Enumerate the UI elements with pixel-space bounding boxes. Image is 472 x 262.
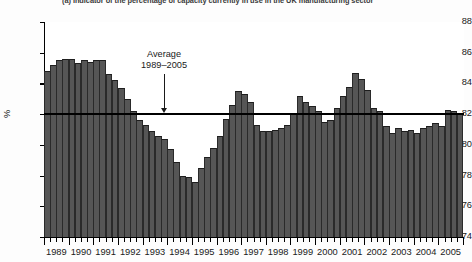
x-tick-mark-quarter xyxy=(278,238,279,242)
x-tick-mark-year xyxy=(44,238,45,245)
average-annotation: Average 1989–2005 xyxy=(119,49,209,71)
x-tick-mark-year xyxy=(463,238,464,245)
figure-capacity-utilisation: (a) Indicator of the percentage of capac… xyxy=(0,0,472,262)
x-tick-mark-year xyxy=(315,238,316,245)
x-tick-mark-quarter xyxy=(395,238,396,242)
x-tick-mark-quarter xyxy=(408,238,409,242)
x-tick-mark-quarter xyxy=(327,238,328,242)
x-tick-mark-quarter xyxy=(229,238,230,242)
x-tick-mark-quarter xyxy=(198,238,199,242)
x-tick-mark-quarter xyxy=(284,238,285,242)
x-tick-mark-year xyxy=(217,238,218,245)
x-tick-mark-quarter xyxy=(377,238,378,242)
x-tick-mark-quarter xyxy=(106,238,107,242)
x-tick-mark-year xyxy=(93,238,94,245)
x-tick-mark-quarter xyxy=(451,238,452,242)
x-tick-mark-quarter xyxy=(223,238,224,242)
x-tick-mark-quarter xyxy=(136,238,137,242)
x-tick-mark-year xyxy=(241,238,242,245)
bar xyxy=(457,113,464,237)
x-tick-mark-year xyxy=(69,238,70,245)
y-tick-mark xyxy=(40,53,44,54)
x-tick-mark-quarter xyxy=(334,238,335,242)
x-tick-mark-year xyxy=(438,238,439,245)
x-tick-mark-quarter xyxy=(124,238,125,242)
x-tick-mark-quarter xyxy=(383,238,384,242)
x-tick-mark-quarter xyxy=(352,238,353,242)
x-tick-mark-year xyxy=(118,238,119,245)
x-tick-mark-quarter xyxy=(180,238,181,242)
x-tick-mark-year xyxy=(192,238,193,245)
x-tick-mark-year xyxy=(290,238,291,245)
x-tick-mark-quarter xyxy=(358,238,359,242)
x-tick-mark-quarter xyxy=(457,238,458,242)
x-tick-mark-quarter xyxy=(112,238,113,242)
x-tick-mark-year xyxy=(167,238,168,245)
x-tick-mark-quarter xyxy=(149,238,150,242)
x-tick-mark-quarter xyxy=(50,238,51,242)
x-tick-mark-quarter xyxy=(303,238,304,242)
x-tick-mark-year xyxy=(364,238,365,245)
x-tick-mark-quarter xyxy=(426,238,427,242)
x-tick-mark-quarter xyxy=(99,238,100,242)
x-tick-mark-quarter xyxy=(321,238,322,242)
x-tick-mark-quarter xyxy=(161,238,162,242)
x-tick-mark-quarter xyxy=(75,238,76,242)
x-tick-mark-quarter xyxy=(371,238,372,242)
x-tick-mark-quarter xyxy=(445,238,446,242)
x-tick-mark-quarter xyxy=(420,238,421,242)
x-tick-label: 2005 xyxy=(436,247,466,257)
x-tick-mark-year xyxy=(414,238,415,245)
average-arrow-head xyxy=(161,108,167,113)
y-tick-label: 86 xyxy=(440,48,472,57)
y-tick-mark xyxy=(40,22,44,23)
average-line xyxy=(44,113,464,115)
x-tick-mark-quarter xyxy=(235,238,236,242)
x-tick-mark-quarter xyxy=(130,238,131,242)
x-tick-mark-quarter xyxy=(254,238,255,242)
x-tick-mark-quarter xyxy=(247,238,248,242)
figure-caption: (a) Indicator of the percentage of capac… xyxy=(62,0,466,6)
x-tick-mark-quarter xyxy=(401,238,402,242)
x-tick-mark-quarter xyxy=(155,238,156,242)
x-tick-mark-quarter xyxy=(309,238,310,242)
x-tick-mark-quarter xyxy=(432,238,433,242)
x-tick-mark-quarter xyxy=(297,238,298,242)
x-tick-mark-quarter xyxy=(346,238,347,242)
y-tick-label: 84 xyxy=(440,78,472,87)
x-tick-mark-quarter xyxy=(87,238,88,242)
x-tick-mark-quarter xyxy=(186,238,187,242)
x-tick-mark-quarter xyxy=(204,238,205,242)
y-axis-label: % xyxy=(2,110,12,118)
x-tick-mark-quarter xyxy=(272,238,273,242)
x-tick-mark-year xyxy=(389,238,390,245)
x-tick-mark-quarter xyxy=(173,238,174,242)
y-tick-label: 88 xyxy=(440,17,472,26)
x-tick-mark-year xyxy=(340,238,341,245)
average-annotation-line2: 1989–2005 xyxy=(119,60,209,71)
x-tick-mark-quarter xyxy=(210,238,211,242)
average-annotation-line1: Average xyxy=(119,49,209,60)
average-arrow-stem xyxy=(164,74,165,109)
x-tick-mark-quarter xyxy=(260,238,261,242)
x-tick-mark-year xyxy=(266,238,267,245)
x-tick-mark-quarter xyxy=(62,238,63,242)
x-tick-mark-quarter xyxy=(56,238,57,242)
x-tick-mark-year xyxy=(143,238,144,245)
x-tick-mark-quarter xyxy=(81,238,82,242)
